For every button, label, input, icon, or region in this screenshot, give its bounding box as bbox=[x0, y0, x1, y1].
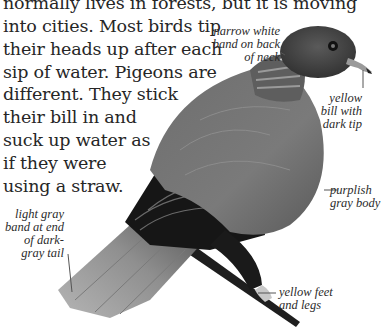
label-feet: yellow feet and legs bbox=[279, 286, 369, 312]
label-line: gray tail bbox=[0, 247, 64, 260]
head bbox=[280, 26, 356, 78]
label-bill: yellow bill with dark tip bbox=[300, 92, 362, 131]
label-line: gray body bbox=[330, 197, 385, 210]
label-line: of neck bbox=[200, 51, 280, 64]
label-line: dark tip bbox=[300, 118, 362, 131]
label-tail: light gray band at end of dark- gray tai… bbox=[0, 208, 64, 260]
label-neck-band: narrow white band on back of neck bbox=[200, 25, 280, 64]
label-line: and legs bbox=[279, 299, 369, 312]
label-body: purplish gray body bbox=[330, 184, 385, 210]
